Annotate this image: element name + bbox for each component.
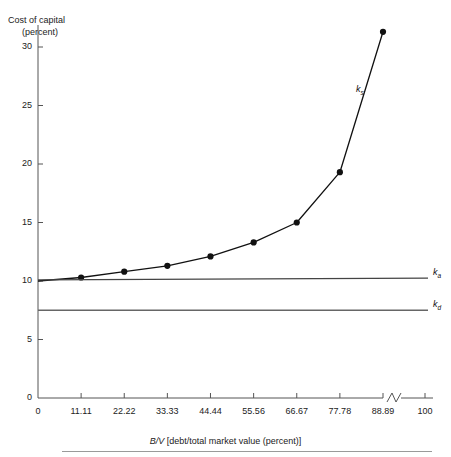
series-line-k_a xyxy=(38,278,428,280)
x-axis-tick-label: 88.89 xyxy=(361,406,405,416)
x-axis-label-text: [debt/total market value (percent)] xyxy=(164,436,301,446)
series-label-subscript-k_d: d xyxy=(438,304,442,311)
series-curve-k_s xyxy=(38,32,383,281)
data-point-marker xyxy=(164,263,170,269)
figure-bottom-rule xyxy=(62,451,432,452)
x-axis-tick-label: 0 xyxy=(16,406,60,416)
data-point-marker xyxy=(251,239,257,245)
x-axis-tick-label: 11.11 xyxy=(59,406,103,416)
x-axis-tick-label: 77.78 xyxy=(318,406,362,416)
series-label-subscript-k_s: s xyxy=(361,89,364,96)
x-axis-break-icon xyxy=(387,393,401,402)
data-point-marker xyxy=(337,169,343,175)
series-label-k_a: ka xyxy=(433,267,441,279)
data-point-marker xyxy=(294,219,300,225)
y-axis-tick-label: 5 xyxy=(6,334,32,344)
x-axis-label-symbol: B/V xyxy=(150,436,165,446)
y-axis-tick-label: 30 xyxy=(6,41,32,51)
y-axis-tick-label: 15 xyxy=(6,217,32,227)
data-point-marker xyxy=(207,253,213,259)
x-axis-tick-label: 55.56 xyxy=(232,406,276,416)
plot-area xyxy=(0,0,451,457)
cost-of-capital-chart: Cost of capital (percent) B/V [debt/tota… xyxy=(0,0,451,457)
y-axis-tick-label: 0 xyxy=(6,392,32,402)
series-label-subscript-k_a: a xyxy=(438,272,442,279)
x-axis-label: B/V [debt/total market value (percent)] xyxy=(0,436,451,446)
y-axis-tick-label: 25 xyxy=(6,100,32,110)
data-point-marker xyxy=(121,269,127,275)
x-axis-tick-label: 66.67 xyxy=(275,406,319,416)
data-point-marker xyxy=(380,29,386,35)
x-axis-tick-label: 22.22 xyxy=(102,406,146,416)
x-axis-tick-label: 100 xyxy=(403,406,447,416)
series-label-k_s: ks xyxy=(356,84,364,96)
x-axis-tick-label: 44.44 xyxy=(188,406,232,416)
y-axis-tick-label: 20 xyxy=(6,158,32,168)
x-axis-tick-label: 33.33 xyxy=(145,406,189,416)
y-axis-tick-label: 10 xyxy=(6,275,32,285)
series-label-k_d: kd xyxy=(433,299,441,311)
